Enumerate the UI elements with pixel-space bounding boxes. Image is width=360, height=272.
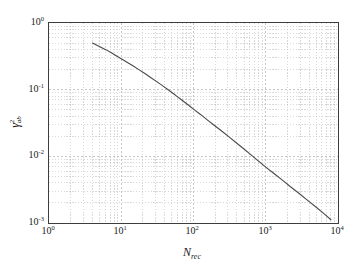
x-tick-label-1e0: 100 [41, 226, 54, 236]
x-tick-label-1e3: 103 [258, 226, 271, 236]
y-tick-label-1e0: 100 [16, 17, 44, 27]
y-tick-label-1em1: 10-1 [14, 84, 44, 94]
plot-area [48, 22, 339, 224]
y-tick-label-1em3: 10-3 [14, 217, 44, 227]
y-axis-title-script: 2ab [9, 116, 23, 123]
curve-layer [49, 23, 338, 223]
y-axis-title: γ2ab [9, 116, 23, 128]
x-tick-label-1e4: 104 [330, 226, 343, 236]
x-tick-label-1e2: 102 [185, 226, 198, 236]
y-tick-label-1em2: 10-2 [14, 150, 44, 160]
data-series-gamma_ab_squared [93, 43, 332, 220]
y-axis-title-symbol: γ [8, 123, 22, 128]
x-tick-label-1e1: 101 [113, 226, 126, 236]
figure-log-log-plot: 100 101 102 103 104 100 10-1 10-2 10-3 N… [0, 0, 360, 272]
x-axis-title: Nrec [183, 246, 201, 258]
